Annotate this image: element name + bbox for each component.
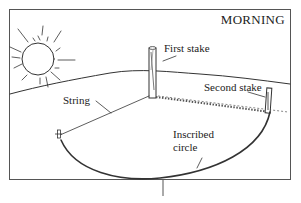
first-stake <box>149 47 156 98</box>
morning-stake-diagram: MORNING First stake Second stake String … <box>0 0 301 203</box>
label-second-stake: Second stake <box>204 81 262 93</box>
label-string: String <box>63 94 90 106</box>
label-first-stake: First stake <box>164 42 210 54</box>
label-inscribed: Inscribed <box>173 128 214 140</box>
diagram-title: MORNING <box>221 12 285 27</box>
label-circle: circle <box>173 141 198 153</box>
second-stake <box>265 88 272 113</box>
